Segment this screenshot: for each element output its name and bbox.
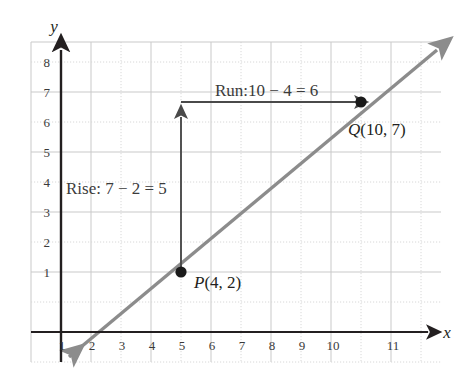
x-tick-3: 3: [119, 338, 126, 353]
x-tick-7: 7: [239, 338, 246, 353]
x-tick-6: 6: [209, 338, 216, 353]
x-tick-5: 5: [179, 338, 186, 353]
y-tick-4: 4: [44, 175, 51, 190]
x-tick-1: 1: [59, 338, 66, 353]
y-tick-2: 2: [44, 235, 51, 250]
x-tick-4: 4: [149, 338, 156, 353]
point-coords-p: (4, 2): [204, 273, 241, 292]
y-tick-1: 1: [44, 265, 51, 280]
y-tick-3: 3: [44, 205, 51, 220]
run-annotation-text: Run:10 − 4 = 6: [215, 81, 318, 100]
point-marker-q: [355, 96, 366, 107]
y-tick-7: 7: [44, 85, 51, 100]
y-tick-5: 5: [44, 145, 51, 160]
x-tick-9: 9: [299, 338, 306, 353]
slope-diagram-svg: y x 8 7 6 5 4 3 2 1 1 2 3 4 5 6 7 8 9 10…: [0, 0, 470, 377]
x-tick-8: 8: [269, 338, 276, 353]
point-label-p: P(4, 2): [193, 273, 241, 292]
point-letter-q: Q: [348, 120, 360, 139]
x-tick-2: 2: [89, 338, 96, 353]
rise-annotation-text: Rise: 7 − 2 = 5: [66, 179, 167, 198]
point-label-q: Q(10, 7): [348, 120, 406, 139]
point-coords-q: (10, 7): [360, 120, 405, 139]
y-axis-label: y: [48, 17, 58, 36]
figure-canvas: y x 8 7 6 5 4 3 2 1 1 2 3 4 5 6 7 8 9 10…: [0, 0, 470, 377]
x-tick-11: 11: [387, 338, 400, 353]
x-axis-label: x: [442, 323, 451, 342]
x-tick-10: 10: [327, 338, 340, 353]
point-marker-p: [175, 266, 186, 277]
y-tick-6: 6: [44, 115, 51, 130]
point-letter-p: P: [193, 273, 204, 292]
y-tick-8: 8: [44, 55, 51, 70]
